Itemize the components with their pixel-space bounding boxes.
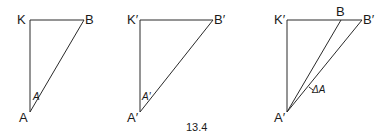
side-ab bbox=[140, 20, 213, 112]
label-k-prime: K′ bbox=[127, 12, 139, 27]
side-ab bbox=[287, 20, 341, 112]
triangle-2: K′ B′ A′ A′ bbox=[127, 12, 226, 125]
triangle-3: K′ B B′ A′ ΔA bbox=[274, 4, 375, 125]
diagram: K B A A K′ B′ A′ A′ K′ B B′ A′ ΔA 13.4 bbox=[0, 0, 389, 138]
triangle-1: K B A A bbox=[17, 12, 94, 125]
angle-label-a: A bbox=[32, 91, 40, 102]
label-b: B bbox=[85, 12, 94, 27]
label-a-prime: A′ bbox=[127, 110, 139, 125]
label-a-prime: A′ bbox=[274, 110, 286, 125]
angle-label-a-prime: A′ bbox=[141, 91, 152, 102]
label-k-prime: K′ bbox=[274, 12, 286, 27]
label-b: B bbox=[336, 4, 345, 19]
label-b-prime: B′ bbox=[363, 12, 375, 27]
label-b-prime: B′ bbox=[214, 12, 226, 27]
label-a: A bbox=[19, 110, 28, 125]
figure-caption: 13.4 bbox=[186, 121, 207, 133]
angle-label-delta-a: ΔA bbox=[311, 84, 326, 95]
label-k: K bbox=[17, 12, 26, 27]
side-ab-prime bbox=[287, 20, 362, 112]
